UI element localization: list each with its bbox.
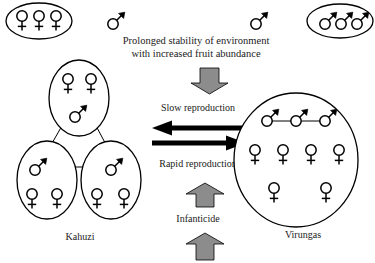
all-male-band-group xyxy=(307,4,373,38)
all-female-band-group xyxy=(6,3,72,39)
gorilla-social-structure-diagram: Prolonged stability of environment with … xyxy=(0,0,375,263)
virungas-group xyxy=(234,93,358,227)
site-label-kahuzi: Kahuzi xyxy=(66,231,95,242)
flow-label-slow-reproduction: Slow reproduction xyxy=(161,102,235,113)
flow-label-infanticide: Infanticide xyxy=(176,213,220,224)
flow-label-rapid-reproduction: Rapid reproduction xyxy=(159,158,236,169)
kahuzi-unit-top xyxy=(49,60,109,136)
kahuzi-unit-bottom-right xyxy=(81,141,141,219)
heading-line-2: with increased fruit abundance xyxy=(131,48,260,59)
kahuzi-unit-top-outline xyxy=(49,60,109,136)
heading-line-1: Prolonged stability of environment xyxy=(123,35,270,46)
kahuzi-unit-bottom-right-outline xyxy=(81,141,141,219)
site-label-virungas: Virungas xyxy=(285,229,321,240)
kahuzi-unit-bottom-left-outline xyxy=(17,141,77,219)
kahuzi-unit-bottom-left xyxy=(17,141,77,219)
